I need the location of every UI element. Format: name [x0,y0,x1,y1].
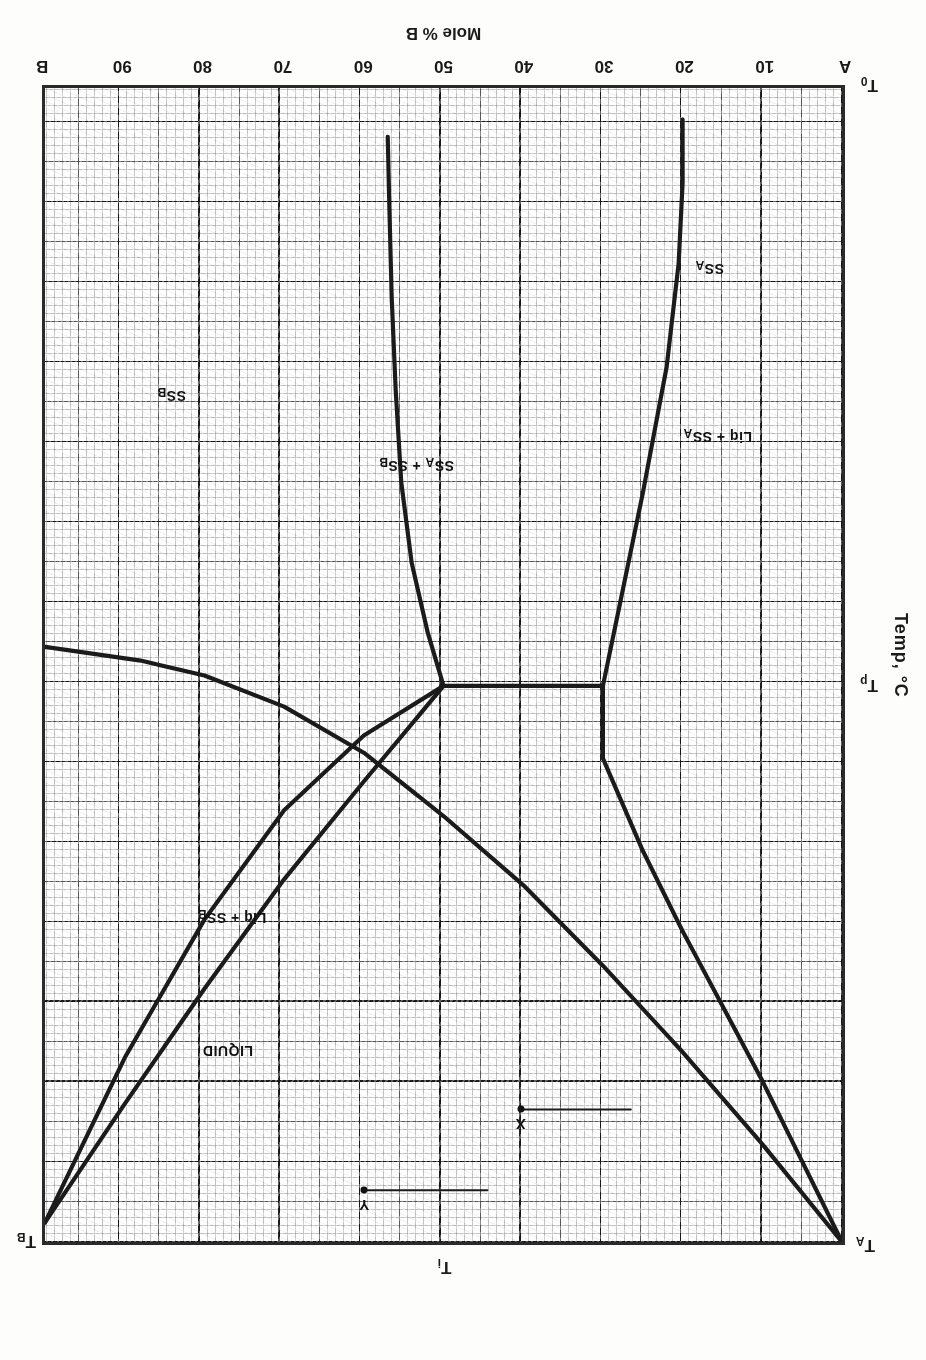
region-label-ssb: SSB [157,386,186,405]
y-mark-T0: T0 [861,75,878,96]
x-tick-70: 70 [273,56,292,76]
x-tick-10: 10 [755,56,774,76]
region-label-liq-ssb: Liq + SSB [197,908,266,927]
region-label-ssa: SSA [695,258,724,277]
x-tick-B: B [36,56,48,76]
x-tick-50: 50 [434,56,453,76]
x-tick-40: 40 [514,56,533,76]
plot-area: LIQUIDLiq + SSALiq + SSBSSASSBSSA + SSB … [42,85,845,1245]
x-tick-60: 60 [354,56,373,76]
point-marker-Y [361,1186,368,1193]
y-mark-TB: TB [17,1231,36,1252]
x-tick-20: 20 [675,56,694,76]
point-label-X: X [516,1116,526,1133]
region-label-liquid: LIQUID [202,1043,252,1059]
phase-diagram-figure: LIQUIDLiq + SSALiq + SSBSSASSBSSA + SSB … [0,0,926,1360]
point-marker-X [517,1105,524,1112]
x-tick-30: 30 [595,56,614,76]
x-tick-A: A [839,56,851,76]
y-mark-TA: TA [856,1235,875,1256]
x-tick-90: 90 [113,56,132,76]
region-label-ssa-ssb: SSA + SSB [379,455,454,474]
point-label-Y: Y [359,1197,369,1214]
y-mark-Tp: Tp [860,674,878,695]
region-label-liq-ssa: Liq + SSA [683,426,752,445]
x-tick-80: 80 [193,56,212,76]
x-axis-title: Mole % B [406,23,482,43]
y-mark-Ti: Ti [438,1257,452,1278]
y-axis-title: Temp, °C [890,613,911,698]
